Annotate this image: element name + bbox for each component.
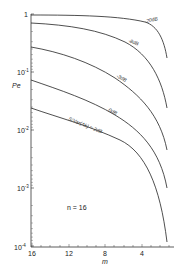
label-0db: 0dB [108,107,119,117]
x-tick-8: 8 [103,250,107,257]
y-axis-title: Pe [12,82,21,89]
label-2db: S/Var(Λk) = 2dB [68,115,104,134]
chart: 1 10-1 10-2 10-3 10-4 16 12 8 4 m Pe -20… [0,0,185,277]
y-tick-10-3: 10-3 [17,184,29,192]
x-tick-16: 16 [28,250,36,257]
x-axis-title: m [102,258,108,265]
label-minus20db: -20dB [144,15,159,24]
curve-minus3db [31,47,167,150]
curve-minus8db [31,23,167,108]
x-tick-12: 12 [65,250,73,257]
label-minus8db: -8dB [128,37,141,46]
curve-0db [31,80,167,188]
y-tick-10-4: 10-4 [14,243,26,251]
y-tick-10-2: 10-2 [17,126,29,134]
y-tick-1: 1 [24,11,28,18]
label-minus3db: -3dB [116,73,129,84]
annotation-n16: n = 16 [67,204,87,211]
y-tick-10-1: 10-1 [17,68,29,76]
x-tick-4: 4 [140,250,144,257]
x-ticks [32,244,169,247]
